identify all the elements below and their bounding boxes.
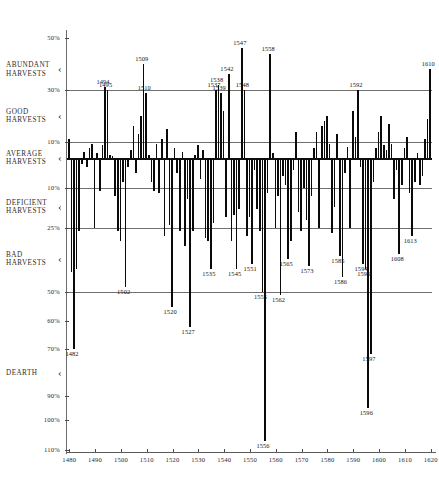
- annotation-1597: 1597: [362, 355, 375, 362]
- x-tick-mark-14: [431, 449, 432, 452]
- bar-1502: [125, 158, 127, 287]
- y-tick-mark-2: [65, 142, 69, 143]
- x-tick-mark-11: [353, 449, 354, 452]
- bar-1582: [331, 158, 333, 233]
- bar-1555: [262, 158, 264, 292]
- bar-1484: [78, 158, 80, 231]
- bar-1595: [365, 158, 367, 269]
- x-tick-13: 1610: [391, 456, 419, 463]
- y-tick-mark-0: [65, 38, 69, 39]
- bars-layer: [66, 30, 436, 452]
- bar-1534: [207, 158, 209, 241]
- band-label-3: DEFICIENT HARVESTS: [6, 199, 58, 216]
- bar-1501: [122, 158, 124, 182]
- bar-1518: [166, 129, 168, 158]
- bar-1503: [127, 158, 129, 167]
- bar-1583: [334, 158, 336, 207]
- bar-1512: [151, 158, 153, 182]
- annotation-1613: 1613: [404, 237, 417, 244]
- y-tick-8: 90%: [32, 392, 60, 399]
- bar-1581: [329, 144, 331, 158]
- bar-1612: [409, 158, 411, 193]
- bar-1504: [130, 150, 132, 158]
- bar-1608: [398, 158, 400, 254]
- y-tick-2: 10%: [32, 138, 60, 145]
- bar-1492: [99, 158, 101, 191]
- bar-1485: [81, 158, 83, 164]
- y-tick-mark-5: [65, 292, 69, 293]
- bar-1591: [355, 137, 357, 158]
- bar-1542: [228, 74, 230, 158]
- y-tick-mark-1: [65, 90, 69, 91]
- annotation-1565: 1565: [280, 260, 293, 267]
- annotation-1592: 1592: [349, 81, 362, 88]
- bar-1571: [303, 158, 305, 188]
- bar-1562: [280, 158, 282, 295]
- bar-1539: [220, 93, 222, 158]
- annotation-1608: 1608: [391, 255, 404, 262]
- bar-1590: [352, 111, 354, 158]
- bar-1599: [375, 148, 377, 158]
- annotation-1610: 1610: [422, 60, 435, 67]
- annotation-1547: 1547: [233, 39, 246, 46]
- bar-1610: [404, 148, 406, 158]
- x-tick-mark-5: [198, 449, 199, 452]
- bar-1598: [373, 158, 375, 182]
- bar-1602: [383, 145, 385, 158]
- x-tick-mark-4: [173, 449, 174, 452]
- bar-1497: [112, 156, 114, 158]
- y-tick-3: 10%: [32, 184, 60, 191]
- x-tick-mark-0: [69, 449, 70, 452]
- y-tick-mark-6: [65, 321, 69, 322]
- bar-1499: [117, 158, 119, 231]
- bar-1604: [388, 124, 390, 158]
- x-tick-mark-8: [276, 449, 277, 452]
- annotation-1502: 1502: [117, 288, 130, 295]
- annotation-1510: 1510: [138, 84, 151, 91]
- x-tick-mark-2: [121, 449, 122, 452]
- y-tick-9: 100%: [32, 416, 60, 423]
- bar-1535: [210, 158, 212, 269]
- annotation-1535: 1535: [202, 270, 215, 277]
- annotation-1527: 1527: [182, 328, 195, 335]
- bar-1488: [89, 148, 91, 158]
- bar-1498: [114, 158, 116, 196]
- bar-1554: [259, 158, 261, 231]
- x-tick-mark-12: [379, 449, 380, 452]
- band-brace-5: ‹: [58, 367, 62, 378]
- bar-1526: [187, 158, 189, 199]
- bar-1613: [411, 158, 413, 236]
- annotation-1520: 1520: [164, 308, 177, 315]
- bar-1573: [308, 158, 310, 266]
- bar-1615: [417, 153, 419, 158]
- y-tick-mark-8: [65, 396, 69, 397]
- annotation-1555: 1555: [254, 293, 267, 300]
- annotation-1595: 1595: [357, 270, 370, 277]
- x-tick-mark-10: [327, 449, 328, 452]
- bar-1509: [143, 64, 145, 158]
- bar-1496: [109, 155, 111, 158]
- bar-1525: [184, 158, 186, 246]
- bar-1620: [429, 69, 431, 158]
- bar-1482: [73, 158, 75, 349]
- bar-1566: [290, 158, 292, 241]
- bar-1519: [169, 158, 171, 225]
- annotation-1558: 1558: [262, 45, 275, 52]
- bar-1483: [76, 158, 78, 269]
- x-tick-8: 1560: [262, 456, 290, 463]
- bar-1561: [277, 158, 279, 196]
- bar-1511: [148, 155, 150, 158]
- annotation-1545: 1545: [228, 270, 241, 277]
- bar-1558: [269, 54, 271, 158]
- annotation-1495: 1495: [99, 81, 112, 88]
- band-label-1: GOOD HARVESTS: [6, 108, 58, 125]
- bar-1515: [158, 158, 160, 193]
- bar-1537: [215, 90, 217, 158]
- band-label-4: BAD HARVESTS: [6, 251, 58, 268]
- band-brace-4: ‹: [58, 253, 62, 264]
- bar-1574: [311, 158, 313, 196]
- bar-1506: [135, 158, 137, 173]
- annotation-1562: 1562: [272, 296, 285, 303]
- bar-1538: [218, 85, 220, 158]
- bar-1617: [422, 158, 424, 176]
